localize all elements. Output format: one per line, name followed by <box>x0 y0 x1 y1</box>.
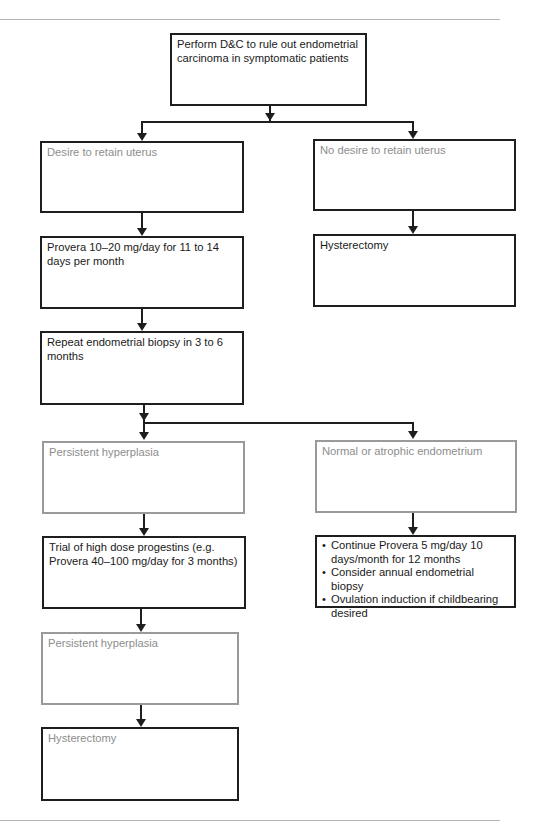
connector-highdose-persistent-2 <box>140 609 142 625</box>
node-hysterectomy-bottom-label: Hysterectomy <box>48 732 116 744</box>
connector-persistent2-hysterectomy <box>140 705 142 720</box>
connector-noretain-hysterectomy <box>412 211 414 227</box>
connector-split-2 <box>143 422 414 424</box>
connector-split-1 <box>141 121 414 123</box>
node-followup-bullets: Continue Provera 5 mg/day 10 days/month … <box>315 535 516 608</box>
node-perform-dc: Perform D&C to rule out endometrial carc… <box>170 33 367 106</box>
arrowhead-hysterectomy-right <box>408 226 418 234</box>
node-hysterectomy-right: Hysterectomy <box>313 234 516 307</box>
arrowhead-followup <box>408 527 418 535</box>
arrowhead-start <box>265 113 275 121</box>
node-desire-retain-uterus: Desire to retain uterus <box>40 141 244 213</box>
node-repeat-biopsy: Repeat endometrial biopsy in 3 to 6 mont… <box>40 331 244 405</box>
followup-item-continue-provera: Continue Provera 5 mg/day 10 days/month … <box>322 539 509 566</box>
node-persistent-hyperplasia-1: Persistent hyperplasia <box>42 441 245 514</box>
arrowhead-persistent-1 <box>139 432 149 440</box>
node-high-dose-progestins: Trial of high dose progestins (e.g. Prov… <box>42 536 246 609</box>
node-provera-10-20: Provera 10–20 mg/day for 11 to 14 days p… <box>40 236 244 309</box>
arrowhead-highdose <box>139 528 149 536</box>
bottom-rule <box>0 820 500 821</box>
arrowhead-normal-atrophic <box>408 431 418 439</box>
node-persistent-hyperplasia-2: Persistent hyperplasia <box>41 632 239 705</box>
node-desire-retain-uterus-label: Desire to retain uterus <box>47 146 157 158</box>
node-repeat-biopsy-label: Repeat endometrial biopsy in 3 to 6 mont… <box>47 336 223 362</box>
top-rule <box>0 19 500 20</box>
node-persistent-hyperplasia-2-label: Persistent hyperplasia <box>48 637 158 649</box>
node-normal-atrophic-endometrium: Normal or atrophic endometrium <box>315 440 517 513</box>
node-normal-atrophic-endometrium-label: Normal or atrophic endometrium <box>322 445 482 457</box>
arrowhead-retain <box>137 133 147 141</box>
arrowhead-repeat-down <box>139 413 149 421</box>
connector-provera-repeat <box>141 309 143 323</box>
followup-list: Continue Provera 5 mg/day 10 days/month … <box>322 539 509 620</box>
arrowhead-no-retain <box>408 131 418 139</box>
arrowhead-persistent-2 <box>136 624 146 632</box>
connector-retain-provera <box>141 213 143 229</box>
followup-item-annual-biopsy: Consider annual endometrial biopsy <box>322 566 509 593</box>
arrowhead-repeat <box>137 323 147 331</box>
node-perform-dc-label: Perform D&C to rule out endometrial carc… <box>177 38 358 64</box>
arrowhead-provera <box>137 228 147 236</box>
node-no-desire-retain-uterus-label: No desire to retain uterus <box>320 144 446 156</box>
connector-persistent-highdose <box>143 514 145 529</box>
connector-normal-followup <box>412 513 414 528</box>
node-persistent-hyperplasia-1-label: Persistent hyperplasia <box>49 446 159 458</box>
node-hysterectomy-bottom: Hysterectomy <box>41 727 239 801</box>
followup-item-ovulation-induction: Ovulation induction if childbearing desi… <box>322 593 509 620</box>
arrowhead-hysterectomy-bottom <box>136 719 146 727</box>
node-no-desire-retain-uterus: No desire to retain uterus <box>313 139 516 211</box>
node-high-dose-progestins-label: Trial of high dose progestins (e.g. Prov… <box>49 541 237 567</box>
node-provera-10-20-label: Provera 10–20 mg/day for 11 to 14 days p… <box>47 241 219 267</box>
node-hysterectomy-right-label: Hysterectomy <box>320 239 388 251</box>
